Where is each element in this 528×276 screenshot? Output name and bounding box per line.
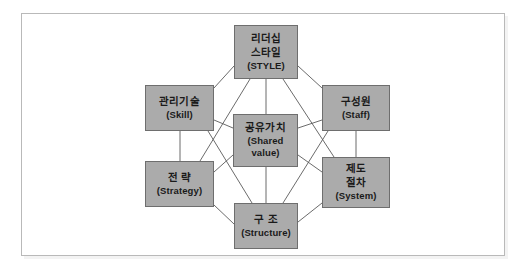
node-shared-en-2: value) xyxy=(251,147,279,160)
edge-system-structure xyxy=(298,203,322,222)
edge-shared-system xyxy=(298,155,322,172)
node-style-en: (STYLE) xyxy=(247,60,285,73)
node-skill-ko: 관리기술 xyxy=(159,95,199,109)
node-system-en: (System) xyxy=(336,190,377,203)
node-system-ko-1: 제도 xyxy=(346,162,366,176)
node-staff-en: (Staff) xyxy=(342,109,370,122)
edge-style-staff xyxy=(298,66,322,88)
node-strategy-en: (Strategy) xyxy=(157,185,202,198)
diagram-canvas: 리더십 스타일 (STYLE) 관리기술 (Skill) 구성원 (Staff)… xyxy=(0,0,528,276)
node-staff-ko: 구성원 xyxy=(341,95,371,109)
node-structure-ko: 구 조 xyxy=(254,213,277,227)
node-shared-value[interactable]: 공유가치 (Shared value) xyxy=(233,114,298,167)
edge-strategy-structure xyxy=(214,205,234,224)
node-skill-en: (Skill) xyxy=(166,109,193,122)
edge-skill-shared xyxy=(214,120,233,128)
node-shared-en-1: (Shared xyxy=(247,135,283,148)
node-staff[interactable]: 구성원 (Staff) xyxy=(322,85,390,131)
node-structure-en: (Structure) xyxy=(241,227,291,240)
edge-staff-shared xyxy=(298,120,322,128)
edge-style-skill xyxy=(214,66,234,88)
node-style-ko-1: 리더십 xyxy=(251,32,281,46)
node-system[interactable]: 제도 절차 (System) xyxy=(322,157,390,208)
node-shared-ko: 공유가치 xyxy=(245,121,285,135)
node-structure[interactable]: 구 조 (Structure) xyxy=(234,203,298,249)
node-style-ko-2: 스타일 xyxy=(251,46,281,60)
node-strategy[interactable]: 전 략 (Strategy) xyxy=(145,161,214,207)
node-skill[interactable]: 관리기술 (Skill) xyxy=(145,85,214,131)
node-style[interactable]: 리더십 스타일 (STYLE) xyxy=(234,25,298,79)
edge-shared-strategy xyxy=(214,155,233,172)
node-strategy-ko: 전 략 xyxy=(168,171,191,185)
node-system-ko-2: 절차 xyxy=(346,176,366,190)
